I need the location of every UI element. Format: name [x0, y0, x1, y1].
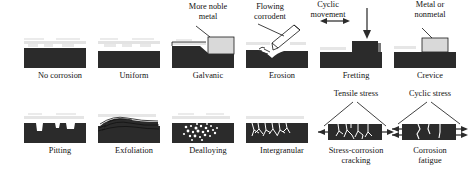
hatch-texture: [246, 116, 304, 119]
hatch-texture: [98, 38, 160, 47]
no-corrosion-graphic: [22, 8, 98, 80]
diagram-cell-crevice: Metal or nonmetal Crevice: [392, 8, 468, 80]
metal-base-right: [208, 54, 234, 68]
metal-base: [24, 48, 86, 68]
diagram-cell-intergranular: Intergranular: [244, 98, 320, 158]
caption-cf-line1: Corrosion: [413, 146, 447, 155]
load-arrow: [363, 8, 371, 39]
tensile-stress-leader-lines: [324, 102, 386, 126]
caption-scc-line1: Stress-corrosion: [329, 146, 384, 155]
metal-base-thinned: [98, 51, 160, 68]
crevice-illustration: [392, 8, 468, 80]
corroded-metal-base: [172, 46, 208, 68]
hatch-texture: [24, 113, 84, 119]
hatch-texture: [394, 46, 416, 49]
diagram-cell-exfoliation: Exfoliation: [96, 98, 172, 158]
hatch-texture: [98, 114, 156, 117]
eroded-metal-base: [246, 50, 308, 68]
caption-crevice: Crevice: [386, 71, 472, 81]
noble-metal-block: [208, 37, 234, 54]
caption-scc-line2: cracking: [342, 156, 371, 165]
caption-corrosion-fatigue: Corrosion fatigue: [386, 146, 472, 165]
leader-line-erosion: [258, 24, 284, 36]
cyclic-stress-leader-lines: [398, 102, 460, 124]
metal-base: [320, 52, 382, 68]
hatch-texture: [172, 113, 230, 119]
diagram-cell-corrosion-fatigue: Cyclic stress: [392, 98, 468, 158]
caption-cf-line2: fatigue: [418, 156, 441, 165]
hatch-texture: [320, 47, 346, 50]
crevice-graphic: [392, 8, 468, 80]
crevice-former-block: [422, 38, 448, 52]
cyclic-movement-arrow: [320, 18, 350, 24]
hatch-texture: [246, 42, 306, 45]
no-corrosion-illustration: [22, 8, 98, 80]
metal-base: [328, 124, 382, 140]
hatch-texture: [24, 38, 86, 47]
diagram-cell-pitting: Pitting: [22, 98, 98, 158]
diagram-cell-dealloying: Dealloying: [170, 98, 246, 158]
metal-base: [394, 52, 456, 68]
leader-line-crevice: [422, 28, 432, 38]
diagram-cell-no-corrosion: No corrosion: [22, 8, 98, 80]
diagram-cell-stress-corrosion-cracking: Tensile stress: [318, 98, 394, 158]
nozzle-icon: [272, 25, 300, 50]
leader-line-galvanic: [196, 26, 210, 37]
pitted-metal-base: [24, 123, 86, 143]
